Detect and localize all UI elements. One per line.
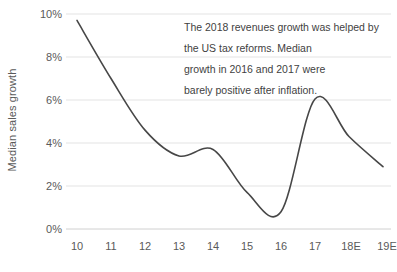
annotation-line: The 2018 revenues growth was helped by: [184, 17, 396, 38]
line-chart: Median sales growth 10% 8% 6% 4% 2% 0%: [0, 0, 397, 272]
annotation-line: the US tax reforms. Median: [184, 38, 396, 59]
x-tick-label-15: 15: [241, 240, 253, 252]
annotation-line: barely positive after inflation.: [184, 80, 396, 101]
x-tick-label-19E: 19E: [377, 240, 397, 252]
y-tick-label: 8%: [26, 51, 62, 63]
y-tick-label: 4%: [26, 137, 62, 149]
y-tick-label: 2%: [26, 180, 62, 192]
x-tick-label-14: 14: [207, 240, 219, 252]
x-axis-tick-labels: 10 11 12 13 14 15 16 17 18E 19E: [66, 236, 391, 260]
y-tick-label: 10%: [26, 8, 62, 20]
x-tick-label-16: 16: [275, 240, 287, 252]
x-tick-label-11: 11: [105, 240, 116, 252]
chart-annotation: The 2018 revenues growth was helped by t…: [184, 17, 396, 101]
y-axis-tick-labels: 10% 8% 6% 4% 2% 0%: [22, 0, 62, 272]
x-tick-label-12: 12: [139, 240, 151, 252]
x-tick-label-13: 13: [173, 240, 185, 252]
x-tick-label-17: 17: [309, 240, 321, 252]
y-tick-label: 0%: [26, 223, 62, 235]
annotation-line: growth in 2016 and 2017 were: [184, 59, 396, 80]
y-axis-title: Median sales growth: [0, 0, 24, 240]
y-axis-title-text: Median sales growth: [6, 69, 18, 172]
x-tick-label-18E: 18E: [341, 240, 361, 252]
y-tick-label: 6%: [26, 94, 62, 106]
x-tick-label-10: 10: [71, 240, 83, 252]
